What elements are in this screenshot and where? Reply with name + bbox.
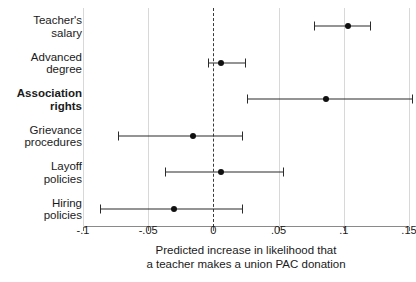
x-axis-spine [83, 226, 409, 227]
category-label: Advanced degree [0, 50, 82, 75]
plot-area [83, 8, 409, 227]
ci-lower-cap [100, 204, 101, 213]
forest-plot-figure: Teacher's salaryAdvanced degreeAssociati… [0, 0, 416, 282]
x-tick-label: -.1 [77, 224, 90, 236]
gridline [344, 8, 345, 227]
category-axis-labels: Teacher's salaryAdvanced degreeAssociati… [0, 0, 82, 228]
estimate-marker [190, 133, 196, 139]
x-tick-label: .1 [339, 224, 348, 236]
ci-upper-cap [242, 204, 243, 213]
gridline [148, 8, 149, 227]
category-label: Layoff policies [0, 160, 82, 185]
x-tick-label: .05 [271, 224, 286, 236]
confidence-interval-bar [314, 26, 370, 27]
gridline [409, 8, 410, 227]
ci-lower-cap [208, 58, 209, 67]
category-label: Hiring policies [0, 196, 82, 221]
estimate-marker [171, 206, 177, 212]
confidence-interval-bar [118, 135, 242, 136]
category-label: Association rights [0, 87, 82, 112]
ci-lower-cap [314, 22, 315, 31]
estimate-marker [345, 23, 351, 29]
x-tick-label: 0 [210, 224, 216, 236]
category-label: Teacher's salary [0, 14, 82, 39]
x-tick-label: -.05 [139, 224, 158, 236]
estimate-marker [323, 96, 329, 102]
confidence-interval-bar [208, 62, 245, 63]
ci-upper-cap [412, 95, 413, 104]
confidence-interval-bar [247, 99, 411, 100]
ci-lower-cap [118, 131, 119, 140]
estimate-marker [218, 60, 224, 66]
x-axis-title: Predicted increase in likelihood that a … [83, 244, 409, 271]
ci-lower-cap [165, 168, 166, 177]
category-label: Grievance procedures [0, 123, 82, 148]
estimate-marker [218, 169, 224, 175]
ci-lower-cap [247, 95, 248, 104]
ci-upper-cap [242, 131, 243, 140]
ci-upper-cap [370, 22, 371, 31]
gridline [279, 8, 280, 227]
x-tick-label: .15 [401, 224, 416, 236]
ci-upper-cap [283, 168, 284, 177]
zero-line [213, 8, 214, 227]
gridline [83, 8, 84, 227]
ci-upper-cap [245, 58, 246, 67]
